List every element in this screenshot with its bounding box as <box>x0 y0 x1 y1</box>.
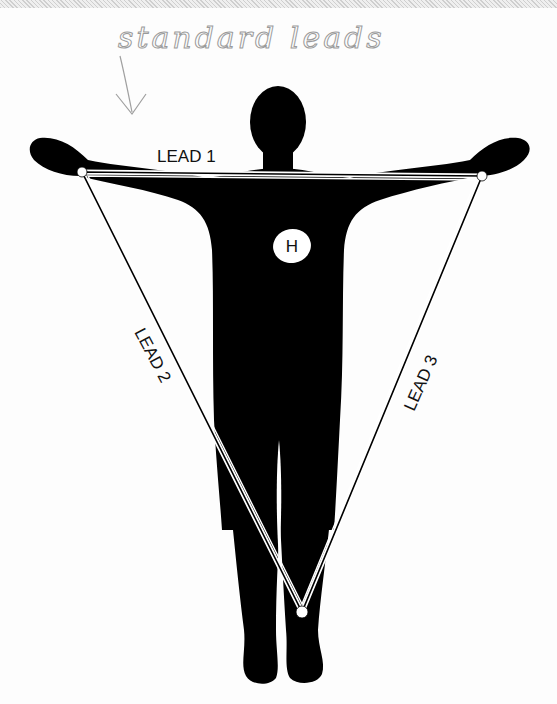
lead-1-label: LEAD 1 <box>157 147 216 166</box>
heart-label: H <box>286 237 298 256</box>
einthoven-diagram: standard leads H <box>0 0 557 704</box>
lead-2-label: LEAD 2 <box>130 325 174 386</box>
hand-drawn-arrow-icon <box>116 56 146 114</box>
handwritten-annotation: standard leads <box>116 20 385 114</box>
right-arm-electrode <box>77 167 87 177</box>
left-leg-electrode <box>296 606 308 618</box>
handwritten-note: standard leads <box>118 20 385 55</box>
diagram-page: standard leads H <box>0 0 557 704</box>
head <box>250 86 306 158</box>
left-arm-electrode <box>477 171 487 181</box>
